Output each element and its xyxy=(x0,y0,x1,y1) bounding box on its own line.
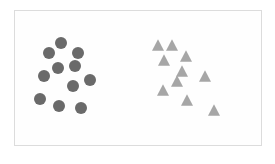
circle-marker xyxy=(53,100,65,112)
circle-marker xyxy=(34,93,46,105)
triangle-marker xyxy=(152,39,164,50)
triangle-marker xyxy=(208,104,220,115)
triangle-marker xyxy=(157,84,169,95)
circle-marker xyxy=(52,62,64,74)
circle-marker xyxy=(75,102,87,114)
triangle-marker xyxy=(199,70,211,81)
circle-marker xyxy=(55,37,67,49)
triangle-marker xyxy=(181,94,193,105)
circle-marker xyxy=(84,74,96,86)
circles-cluster xyxy=(34,37,96,114)
circle-marker xyxy=(38,70,50,82)
triangle-marker xyxy=(171,75,183,86)
triangles-cluster xyxy=(152,39,220,115)
triangle-marker xyxy=(158,54,170,65)
circle-marker xyxy=(43,47,55,59)
circle-marker xyxy=(69,60,81,72)
triangle-marker xyxy=(180,50,192,61)
triangle-marker xyxy=(166,39,178,50)
scatter-clusters xyxy=(0,0,275,164)
circle-marker xyxy=(72,47,84,59)
triangle-marker xyxy=(176,65,188,76)
circle-marker xyxy=(67,80,79,92)
